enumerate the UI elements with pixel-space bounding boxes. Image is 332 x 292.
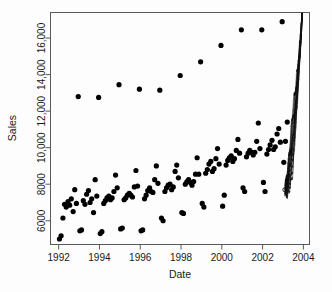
data-point bbox=[74, 201, 79, 206]
x-axis-title: Date bbox=[169, 268, 191, 280]
data-point bbox=[99, 229, 104, 234]
data-point bbox=[181, 211, 186, 216]
data-point bbox=[198, 59, 203, 64]
data-point bbox=[201, 204, 206, 209]
data-point bbox=[71, 209, 76, 214]
data-point bbox=[213, 156, 218, 161]
data-point bbox=[208, 159, 213, 164]
y-tick-label: 16,000 bbox=[36, 22, 47, 53]
data-point bbox=[82, 202, 87, 207]
y-tick-label: 12,000 bbox=[36, 95, 47, 126]
data-point bbox=[91, 210, 96, 215]
data-point bbox=[96, 95, 101, 100]
data-point bbox=[268, 142, 273, 147]
data-point bbox=[176, 175, 181, 180]
data-point bbox=[218, 43, 223, 48]
data-point bbox=[239, 27, 244, 32]
data-point bbox=[173, 169, 178, 174]
data-point bbox=[120, 225, 125, 230]
data-point bbox=[211, 166, 216, 171]
data-point bbox=[89, 196, 94, 201]
data-point bbox=[259, 27, 264, 32]
data-point bbox=[160, 218, 165, 223]
forecast-fan-annotation bbox=[283, 7, 303, 199]
data-points-monthly bbox=[57, 120, 290, 242]
x-axis-ticks bbox=[59, 245, 304, 250]
data-point bbox=[274, 131, 279, 136]
data-point bbox=[269, 138, 274, 143]
data-point bbox=[69, 196, 74, 201]
data-point bbox=[237, 151, 242, 156]
y-axis-tick-labels: 6000800010,00012,00014,00016,000 bbox=[36, 22, 47, 232]
data-point bbox=[266, 147, 271, 152]
scatter-plot-canvas: 6000800010,00012,00014,00016,000 1992199… bbox=[0, 0, 332, 292]
data-points-december-peaks bbox=[76, 19, 285, 100]
data-point bbox=[140, 227, 145, 232]
data-point bbox=[130, 194, 135, 199]
data-point bbox=[220, 204, 225, 209]
data-point bbox=[254, 139, 259, 144]
data-point bbox=[285, 120, 290, 125]
data-point bbox=[116, 82, 121, 87]
data-point bbox=[273, 144, 278, 149]
data-point bbox=[262, 189, 267, 194]
data-point bbox=[217, 162, 222, 167]
x-tick-label: 1996 bbox=[129, 252, 152, 263]
data-point bbox=[135, 183, 140, 188]
x-tick-label: 2000 bbox=[211, 252, 234, 263]
data-point bbox=[60, 215, 65, 220]
data-point bbox=[133, 168, 138, 173]
data-point bbox=[195, 155, 200, 160]
data-point bbox=[171, 184, 176, 189]
y-axis-title: Sales bbox=[6, 115, 18, 141]
data-point bbox=[72, 187, 77, 192]
data-point bbox=[278, 140, 283, 145]
data-point bbox=[154, 163, 159, 168]
data-point bbox=[280, 19, 285, 24]
y-tick-label: 6000 bbox=[36, 209, 47, 232]
data-point bbox=[256, 120, 261, 125]
data-point bbox=[223, 162, 228, 167]
chart-figure: 6000800010,00012,00014,00016,000 1992199… bbox=[0, 0, 332, 292]
data-point bbox=[67, 203, 72, 208]
data-point bbox=[283, 139, 288, 144]
data-point bbox=[222, 193, 227, 198]
data-point bbox=[276, 126, 281, 131]
y-tick-label: 14,000 bbox=[36, 59, 47, 90]
data-point bbox=[144, 193, 149, 198]
data-point bbox=[257, 146, 262, 151]
x-tick-label: 1994 bbox=[88, 252, 111, 263]
data-point bbox=[261, 180, 266, 185]
data-point bbox=[137, 87, 142, 92]
data-point bbox=[174, 162, 179, 167]
data-point bbox=[109, 195, 114, 200]
data-point bbox=[59, 233, 64, 238]
y-tick-label: 8000 bbox=[36, 173, 47, 196]
data-point bbox=[150, 190, 155, 195]
data-point bbox=[93, 177, 98, 182]
data-point bbox=[178, 73, 183, 78]
data-point bbox=[155, 181, 160, 186]
data-point bbox=[86, 188, 91, 193]
x-axis-tick-labels: 1992199419961998200020022004 bbox=[48, 252, 315, 263]
data-point bbox=[232, 156, 237, 161]
data-point bbox=[242, 189, 247, 194]
data-point bbox=[76, 94, 81, 99]
x-tick-label: 1998 bbox=[170, 252, 193, 263]
y-tick-label: 10,000 bbox=[36, 132, 47, 163]
data-point bbox=[113, 172, 118, 177]
data-point bbox=[196, 172, 201, 177]
data-point bbox=[235, 137, 240, 142]
data-point bbox=[205, 167, 210, 172]
plot-frame bbox=[51, 13, 310, 245]
data-point bbox=[94, 193, 99, 198]
data-point bbox=[157, 88, 162, 93]
data-point bbox=[215, 146, 220, 151]
data-point bbox=[264, 151, 269, 156]
x-tick-label: 2004 bbox=[292, 252, 315, 263]
data-point bbox=[281, 160, 286, 165]
data-point bbox=[191, 179, 196, 184]
data-point bbox=[79, 227, 84, 232]
data-point bbox=[252, 150, 257, 155]
x-tick-label: 1992 bbox=[48, 252, 71, 263]
